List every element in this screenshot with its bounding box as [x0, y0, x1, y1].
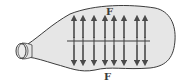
top-force-label: F: [106, 6, 113, 17]
balloon-body: [28, 6, 175, 71]
balloon-mouth: [16, 44, 26, 59]
balloon-neck: [16, 43, 32, 59]
bottom-force-label: F: [104, 71, 111, 82]
balloon-force-diagram: F F: [0, 0, 179, 82]
